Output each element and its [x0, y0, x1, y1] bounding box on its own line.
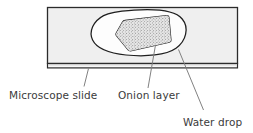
onion-slide-diagram: Microscope slide Onion layer Water drop	[0, 0, 253, 133]
slide-thickness-edge	[48, 64, 238, 68]
label-water-drop: Water drop	[183, 116, 242, 128]
label-microscope-slide: Microscope slide	[9, 89, 97, 101]
leader-line-microscope-slide	[84, 69, 89, 87]
label-onion-layer: Onion layer	[118, 89, 180, 101]
